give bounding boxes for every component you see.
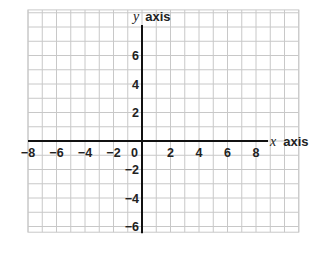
x-tick-label: 0 <box>131 146 138 160</box>
grid-lines <box>28 10 299 232</box>
x-tick-label: −8 <box>21 146 35 160</box>
y-tick-label: 4 <box>132 78 139 92</box>
y-tick-label: 2 <box>132 106 139 120</box>
x-tick-label: 4 <box>196 146 203 160</box>
x-tick-label: −2 <box>106 146 120 160</box>
coordinate-plane: −8−6−4−202468 642−2−4−6 x axis y axis <box>0 0 312 254</box>
x-tick-label: −4 <box>78 146 92 160</box>
y-tick-label: −2 <box>125 163 139 177</box>
x-axis-title: x axis <box>269 132 309 149</box>
y-tick-label: −4 <box>125 192 139 206</box>
grid-border <box>28 10 299 232</box>
y-tick-label: −6 <box>125 220 139 234</box>
x-tick-label: 6 <box>224 146 231 160</box>
x-tick-label: −6 <box>49 146 63 160</box>
x-axis-var: x <box>269 134 277 149</box>
y-axis-label-text: axis <box>145 9 170 24</box>
x-axis-tick-labels: −8−6−4−202468 <box>21 146 260 160</box>
x-tick-label: 2 <box>167 146 174 160</box>
x-tick-label: 8 <box>253 146 260 160</box>
y-tick-label: 6 <box>132 49 139 63</box>
y-axis-title: y axis <box>131 7 171 24</box>
y-axis-var: y <box>131 9 140 24</box>
x-axis-label-text: axis <box>283 134 308 149</box>
